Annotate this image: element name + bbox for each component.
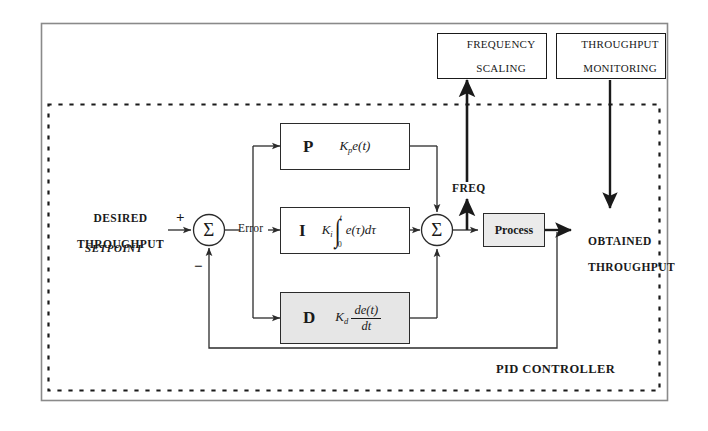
error-sum-symbol: Σ [194,219,224,240]
i-block-letter: I [299,221,306,241]
pid-controller-label: PID CONTROLLER [496,362,615,376]
p-block-formula: Kpe(t) [339,138,370,155]
error-label: Error [238,222,263,235]
i-expression: e(τ)dτ [346,221,376,236]
p-block-letter: P [303,137,313,157]
obtained-throughput-line2: THROUGHPUT [588,261,675,273]
throughput-monitoring-box[interactable]: THROUGHPUT MONITORING [556,33,666,79]
d-block-letter: D [303,308,315,328]
frequency-scaling-line1: FREQUENCY [467,38,536,50]
minus-sign-label: − [194,258,203,275]
pid-block-derivative[interactable]: D Kd de(t) dt [280,292,410,344]
integral-sign: t ∫ 0 [333,216,346,246]
derivative-numerator: de(t) [351,303,381,319]
desired-throughput-line1: DESIRED [94,212,148,224]
p-expression: e(t) [352,138,370,153]
diagram-canvas: FREQUENCY SCALING THROUGHPUT MONITORING … [0,0,708,431]
obtained-throughput-line1: OBTAINED [588,235,652,247]
frequency-scaling-box[interactable]: FREQUENCY SCALING [437,33,547,79]
freq-label: FREQ [452,182,486,195]
process-block[interactable]: Process [483,213,545,247]
output-sum-symbol: Σ [422,219,452,240]
plus-sign-label: + [176,209,185,226]
setpoint-label: SETPOINT [62,242,166,254]
process-label: Process [495,223,533,238]
d-gain-subscript: d [344,316,348,326]
integral-lower-limit: 0 [338,240,342,249]
d-gain-symbol: K [335,309,344,324]
i-block-formula: Ki t ∫ 0 e(τ)dτ [322,216,376,246]
p-gain-symbol: K [339,138,348,153]
throughput-monitoring-line1: THROUGHPUT [581,38,659,50]
obtained-throughput-label: OBTAINED THROUGHPUT [575,222,675,286]
d-block-formula: Kd de(t) dt [335,303,381,334]
derivative-denominator: dt [351,319,381,334]
pid-block-proportional[interactable]: P Kpe(t) [280,123,410,170]
throughput-monitoring-line2: MONITORING [583,62,657,74]
frequency-scaling-line2: SCALING [476,62,526,74]
i-gain-symbol: K [322,221,331,236]
pid-block-integral[interactable]: I Ki t ∫ 0 e(τ)dτ [280,207,410,254]
derivative-fraction: de(t) dt [351,303,381,334]
